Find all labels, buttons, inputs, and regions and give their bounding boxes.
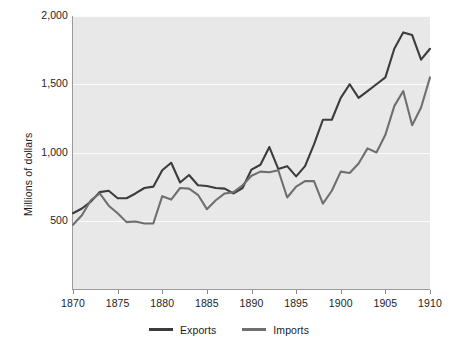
series-line-exports [73, 32, 430, 213]
series-lines [0, 0, 458, 347]
line-chart: Millions of dollars 5001,0001,5002,000 1… [0, 0, 458, 347]
legend-label: Exports [180, 324, 216, 336]
legend-swatch-icon [149, 328, 173, 331]
chart-legend: ExportsImports [0, 322, 458, 336]
legend-label: Imports [273, 324, 309, 336]
series-line-imports [73, 77, 430, 224]
legend-item-exports[interactable]: Exports [149, 323, 216, 336]
legend-item-imports[interactable]: Imports [242, 323, 309, 336]
legend-swatch-icon [242, 328, 266, 331]
